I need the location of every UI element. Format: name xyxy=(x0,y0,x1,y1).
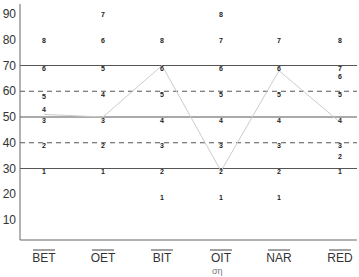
scale-marker: 8 xyxy=(42,37,46,44)
scale-marker: 5 xyxy=(277,91,281,98)
scale-marker: 2 xyxy=(160,168,164,175)
scale-marker: 1 xyxy=(42,168,46,175)
scale-marker: 3 xyxy=(277,142,281,149)
scale-marker: 4 xyxy=(338,117,342,124)
scale-marker: 7 xyxy=(338,65,342,72)
scale-marker: 3 xyxy=(101,117,105,124)
y-axis-ticks: 102030405060708090 xyxy=(3,7,17,227)
scale-marker: 8 xyxy=(338,37,342,44)
scale-marker: 1 xyxy=(101,168,105,175)
scale-marker: 4 xyxy=(101,91,105,98)
scale-marker: 6 xyxy=(42,65,46,72)
scale-marker: 1 xyxy=(219,194,223,201)
y-tick-label: 60 xyxy=(3,84,17,98)
scale-marker: 3 xyxy=(42,117,46,124)
scale-marker: 2 xyxy=(101,142,105,149)
profile-line xyxy=(44,66,340,172)
scale-marker: 4 xyxy=(160,117,164,124)
scale-marker: 5 xyxy=(160,91,164,98)
category-text: RED xyxy=(327,251,353,265)
scale-marker: 6 xyxy=(338,73,342,80)
y-tick-label: 90 xyxy=(3,7,17,21)
category-labels: BETOETBITOITNARRED xyxy=(32,250,353,265)
category-text: NAR xyxy=(266,251,292,265)
scale-marker: 2 xyxy=(277,168,281,175)
category-label-bit: BIT xyxy=(151,250,173,265)
scale-marker: 2 xyxy=(219,168,223,175)
category-label-red: RED xyxy=(327,250,353,265)
scale-marker: 3 xyxy=(219,142,223,149)
y-tick-label: 50 xyxy=(3,110,17,124)
category-label-bet: BET xyxy=(32,250,56,265)
scale-marker: 5 xyxy=(338,91,342,98)
scale-marker: 6 xyxy=(160,65,164,72)
scale-marker: 2 xyxy=(338,153,342,160)
y-tick-label: 20 xyxy=(3,187,17,201)
scale-marker: 8 xyxy=(160,37,164,44)
y-tick-label: 80 xyxy=(3,33,17,47)
category-text: OIT xyxy=(211,251,232,265)
category-label-oet: OET xyxy=(91,250,116,265)
scale-marker: 1 xyxy=(277,194,281,201)
scale-marker: 7 xyxy=(277,37,281,44)
y-tick-label: 40 xyxy=(3,136,17,150)
scale-marker: 1 xyxy=(338,168,342,175)
scale-marker: 5 xyxy=(101,65,105,72)
footer-fragment: ση xyxy=(212,266,223,276)
scale-marker: 4 xyxy=(277,117,281,124)
scale-marker: 2 xyxy=(42,142,46,149)
scale-marker: 3 xyxy=(338,142,342,149)
scale-marker: 8 xyxy=(219,11,223,18)
profile-chart: 102030405060708090 123456812345671234568… xyxy=(0,0,359,277)
scale-marker: 4 xyxy=(219,117,223,124)
scale-markers: 1234568123456712345681234567812345671234… xyxy=(42,11,342,201)
category-label-nar: NAR xyxy=(266,250,292,265)
scale-marker: 1 xyxy=(160,194,164,201)
category-text: BIT xyxy=(153,251,172,265)
scale-marker: 4 xyxy=(42,106,46,113)
scale-marker: 5 xyxy=(42,93,46,100)
y-tick-label: 10 xyxy=(3,213,17,227)
scale-marker: 6 xyxy=(277,65,281,72)
scale-marker: 6 xyxy=(101,37,105,44)
scale-marker: 3 xyxy=(160,142,164,149)
scale-marker: 7 xyxy=(219,37,223,44)
scale-marker: 5 xyxy=(219,91,223,98)
scale-marker: 7 xyxy=(101,11,105,18)
y-tick-label: 70 xyxy=(3,59,17,73)
y-tick-label: 30 xyxy=(3,162,17,176)
scale-marker: 6 xyxy=(219,65,223,72)
category-text: BET xyxy=(32,251,56,265)
category-text: OET xyxy=(91,251,116,265)
reference-lines xyxy=(20,66,357,169)
category-label-oit: OIT xyxy=(210,250,232,265)
